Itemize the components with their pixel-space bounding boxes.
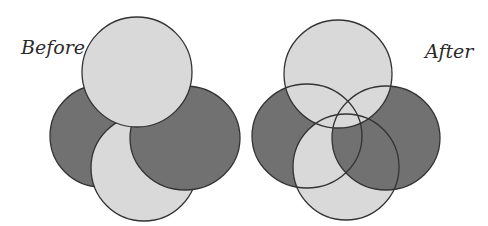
before-top-circle: [82, 17, 192, 127]
venn-diagrams: [0, 0, 488, 226]
after-diagram: [252, 20, 440, 220]
before-diagram: [50, 17, 240, 221]
